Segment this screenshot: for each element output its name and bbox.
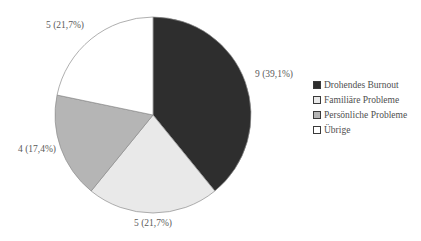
legend-item-uebrige: Übrige [313, 125, 407, 135]
pie-chart-figure: 9 (39,1%) 5 (21,7%) 4 (17,4%) 5 (21,7%) … [0, 0, 421, 241]
slice-label-familiaere-probleme: 5 (21,7%) [130, 218, 176, 229]
legend-marker-square-icon [313, 81, 321, 89]
legend: Drohendes Burnout Familiäre Probleme Per… [313, 80, 407, 140]
legend-marker-square-icon [313, 96, 321, 104]
legend-marker-square-icon [313, 126, 321, 134]
slice-label-uebrige: 5 (21,7%) [46, 20, 84, 31]
legend-item-drohendes-burnout: Drohendes Burnout [313, 80, 407, 90]
legend-label: Persönliche Probleme [324, 110, 407, 120]
slice-label-persoenliche-probleme: 4 (17,4%) [18, 144, 56, 155]
legend-marker-square-icon [313, 111, 321, 119]
legend-label: Familiäre Probleme [324, 95, 399, 105]
legend-label: Drohendes Burnout [324, 80, 399, 90]
legend-label: Übrige [324, 125, 350, 135]
legend-item-familiaere-probleme: Familiäre Probleme [313, 95, 407, 105]
slice-label-drohendes-burnout: 9 (39,1%) [255, 69, 293, 80]
legend-item-persoenliche-probleme: Persönliche Probleme [313, 110, 407, 120]
